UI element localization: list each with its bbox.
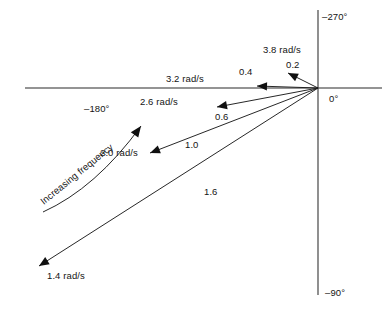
magnitude-label-1.0: 1.0 (185, 139, 199, 150)
frequency-label-3.2: 3.2 rad/s (166, 73, 204, 84)
axis-label-minus-90: –90° (325, 287, 345, 298)
phasor-arrowhead-2.6 (217, 101, 228, 109)
phasor-arrowhead-3.2 (257, 82, 267, 90)
phasor-arrowhead-2.0 (150, 145, 161, 153)
magnitude-label-1.6: 1.6 (204, 186, 218, 197)
increasing-frequency-arrowhead (131, 126, 141, 138)
magnitude-label-0.6: 0.6 (215, 111, 229, 122)
frequency-label-1.4: 1.4 rad/s (47, 270, 85, 281)
polar-frequency-response-figure: –270°–180°0°–90° 3.8 rad/s0.23.2 rad/s0.… (0, 0, 382, 319)
frequency-label-2.6: 2.6 rad/s (140, 96, 178, 107)
increasing-frequency-curve (43, 126, 141, 212)
phasor-arrowhead-1.4 (39, 257, 50, 266)
frequency-label-3.8: 3.8 rad/s (263, 44, 301, 55)
magnitude-label-0.4: 0.4 (239, 66, 253, 77)
axis-label-0: 0° (329, 93, 338, 104)
magnitude-label-0.2: 0.2 (286, 59, 300, 70)
increasing-frequency-arrow (43, 126, 141, 212)
axis-label-minus-180: –180° (84, 103, 109, 114)
axis-label-minus-270: –270° (322, 11, 347, 22)
